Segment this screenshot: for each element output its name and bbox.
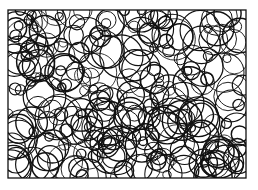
circles-canvas: [0, 0, 258, 190]
random-circles-figure: [0, 0, 258, 190]
